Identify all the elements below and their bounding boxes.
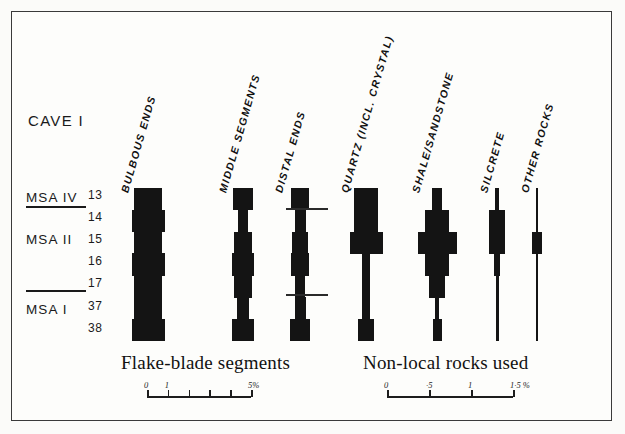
bar-shale-sandstone-layer-16 xyxy=(425,253,449,275)
scale-tick-left-2 xyxy=(189,390,191,397)
column-header-distal-ends: DISTAL ENDS xyxy=(272,110,307,194)
bar-quartz-incl-crystal-layer-16 xyxy=(362,253,370,275)
bar-other-rocks-layer-37 xyxy=(536,297,538,319)
scale-tick-right-3 xyxy=(513,390,515,397)
bar-distal-ends-layer-15 xyxy=(292,232,307,254)
industry-label-msa-iv: MSA IV xyxy=(26,190,78,205)
column-header-middle-segments: MIDDLE SEGMENTS xyxy=(216,72,261,194)
bar-silcrete-layer-38 xyxy=(496,319,499,341)
bar-quartz-incl-crystal-layer-15 xyxy=(350,232,383,254)
bar-middle-segments-layer-16 xyxy=(232,253,253,275)
bar-shale-sandstone-layer-15 xyxy=(418,232,457,254)
scale-tick-right-2 xyxy=(471,390,473,397)
bar-silcrete-layer-16 xyxy=(494,253,500,275)
layer-number-38: 38 xyxy=(88,321,110,335)
scale-tick-left-1 xyxy=(168,390,170,397)
bar-distal-ends-layer-14 xyxy=(295,210,306,232)
layer-number-15: 15 xyxy=(88,232,110,246)
group-divider-tick-1 xyxy=(286,208,328,210)
left-panel-caption: Flake-blade segments xyxy=(121,352,290,374)
scale-tick-right-0 xyxy=(387,390,389,397)
bar-shale-sandstone-layer-14 xyxy=(425,210,449,232)
industry-divider-rule xyxy=(26,290,86,292)
bar-other-rocks-layer-38 xyxy=(536,319,538,341)
bar-other-rocks-layer-15 xyxy=(532,232,542,254)
bar-shale-sandstone-layer-37 xyxy=(435,297,439,319)
column-header-shale-sandstone: SHALE/SANDSTONE xyxy=(409,70,455,194)
bar-quartz-incl-crystal-layer-13 xyxy=(354,188,378,210)
bar-bulbous-ends-layer-16 xyxy=(132,253,165,275)
layer-number-14: 14 xyxy=(88,210,110,224)
bar-bulbous-ends-layer-38 xyxy=(132,319,165,341)
bar-silcrete-layer-13 xyxy=(495,188,499,210)
scale-label-left-2: 5% xyxy=(248,380,259,390)
scale-label-left-1: 1 xyxy=(165,380,169,390)
chart-plot-area: CAVE IMSA IVMSA IIMSA I13141516173738BUL… xyxy=(0,0,625,434)
bar-silcrete-layer-17 xyxy=(496,275,499,297)
right-panel-caption: Non-local rocks used xyxy=(363,352,528,374)
scale-axis-left xyxy=(147,396,251,398)
layer-number-16: 16 xyxy=(88,254,110,268)
industry-divider-rule xyxy=(26,206,86,208)
bar-silcrete-layer-14 xyxy=(489,210,505,232)
bar-bulbous-ends-layer-14 xyxy=(132,210,165,232)
scale-tick-right-1 xyxy=(429,390,431,397)
bar-middle-segments-layer-17 xyxy=(234,275,252,297)
bar-quartz-incl-crystal-layer-38 xyxy=(358,319,374,341)
bar-silcrete-layer-15 xyxy=(489,232,505,254)
column-header-silcrete: SILCRETE xyxy=(477,130,506,194)
scale-axis-right xyxy=(387,396,513,398)
bar-middle-segments-layer-37 xyxy=(237,297,249,319)
scale-tick-left-4 xyxy=(230,390,232,397)
industry-label-msa-ii: MSA II xyxy=(26,232,72,247)
scale-label-left-0: 0 xyxy=(144,380,148,390)
scale-label-right-0: 0 xyxy=(384,380,388,390)
bar-shale-sandstone-layer-38 xyxy=(433,319,442,341)
layer-number-13: 13 xyxy=(88,188,110,202)
bar-bulbous-ends-layer-17 xyxy=(134,275,162,297)
bar-other-rocks-layer-16 xyxy=(536,253,538,275)
scale-tick-left-3 xyxy=(209,390,211,397)
bar-middle-segments-layer-38 xyxy=(232,319,253,341)
scale-tick-left-0 xyxy=(147,390,149,397)
bar-other-rocks-layer-14 xyxy=(536,210,538,232)
bar-silcrete-layer-37 xyxy=(496,297,499,319)
bar-distal-ends-layer-37 xyxy=(295,297,306,319)
bar-middle-segments-layer-14 xyxy=(238,210,248,232)
scale-tick-left-5 xyxy=(251,390,253,397)
scale-label-right-2: 1 xyxy=(468,380,472,390)
bar-bulbous-ends-layer-13 xyxy=(134,188,162,210)
industry-label-msa-i: MSA I xyxy=(26,302,68,317)
column-header-bulbous-ends: BULBOUS ENDS xyxy=(118,94,157,194)
bar-middle-segments-layer-13 xyxy=(233,188,252,210)
column-header-other-rocks: OTHER ROCKS xyxy=(518,101,555,194)
bar-distal-ends-layer-16 xyxy=(291,253,310,275)
bar-bulbous-ends-layer-15 xyxy=(134,232,162,254)
bar-middle-segments-layer-15 xyxy=(234,232,252,254)
bar-other-rocks-layer-13 xyxy=(536,188,538,210)
layer-number-17: 17 xyxy=(88,276,110,290)
bar-other-rocks-layer-17 xyxy=(536,275,538,297)
bar-quartz-incl-crystal-layer-14 xyxy=(354,210,378,232)
layer-number-37: 37 xyxy=(88,299,110,313)
bar-shale-sandstone-layer-13 xyxy=(432,188,442,210)
bar-shale-sandstone-layer-17 xyxy=(429,275,445,297)
scale-label-right-3: 1·5 % xyxy=(510,380,530,390)
column-header-quartz-incl-crystal: QUARTZ (INCL. CRYSTAL) xyxy=(338,34,395,194)
scale-label-right-1: ·5 xyxy=(426,380,432,390)
bar-bulbous-ends-layer-37 xyxy=(134,297,162,319)
bar-quartz-incl-crystal-layer-37 xyxy=(362,297,370,319)
bar-quartz-incl-crystal-layer-17 xyxy=(362,275,370,297)
page-title: CAVE I xyxy=(28,112,84,129)
bar-distal-ends-layer-38 xyxy=(290,319,310,341)
group-divider-tick-2 xyxy=(286,294,328,296)
